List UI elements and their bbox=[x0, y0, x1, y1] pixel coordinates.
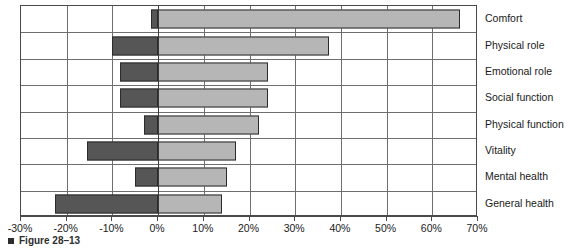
category-label: Emotional role bbox=[485, 65, 552, 77]
bar-negative[interactable] bbox=[151, 10, 158, 29]
category-label: Vitality bbox=[485, 144, 516, 156]
figure-container: Figure 28–13 -30%-20%-10%0%10%20%30%40%5… bbox=[0, 0, 573, 251]
x-axis-tick-mark bbox=[386, 216, 387, 221]
bar-negative[interactable] bbox=[120, 62, 158, 81]
x-axis-tick-label: 70% bbox=[466, 222, 487, 234]
x-axis-tick-mark bbox=[157, 216, 158, 221]
bar-positive[interactable] bbox=[158, 62, 268, 81]
bar-negative[interactable] bbox=[135, 168, 158, 187]
x-axis-tick-label: 40% bbox=[329, 222, 350, 234]
x-axis-tick-label: 0% bbox=[150, 222, 165, 234]
bar-negative[interactable] bbox=[144, 115, 158, 134]
bar-positive[interactable] bbox=[158, 115, 259, 134]
x-axis-tick-mark bbox=[66, 216, 67, 221]
bar-positive[interactable] bbox=[158, 10, 460, 29]
x-axis-tick-label: -10% bbox=[99, 222, 124, 234]
bar-row bbox=[21, 138, 476, 164]
x-axis-tick-label: 50% bbox=[375, 222, 396, 234]
x-axis-tick-mark bbox=[20, 216, 21, 221]
bar-row bbox=[21, 112, 476, 138]
figure-caption: Figure 28–13 bbox=[8, 235, 80, 247]
bar-row bbox=[21, 59, 476, 85]
x-axis-tick-label: -30% bbox=[8, 222, 33, 234]
x-axis-tick-label: -20% bbox=[53, 222, 78, 234]
x-axis-tick-label: 10% bbox=[192, 222, 213, 234]
bar-row bbox=[21, 32, 476, 58]
bar-row bbox=[21, 164, 476, 190]
x-axis-tick-label: 20% bbox=[238, 222, 259, 234]
x-axis-tick-mark bbox=[203, 216, 204, 221]
x-axis-tick-mark bbox=[477, 216, 478, 221]
x-axis-tick-mark bbox=[111, 216, 112, 221]
category-label: Physical function bbox=[485, 118, 564, 130]
bar-positive[interactable] bbox=[158, 194, 222, 213]
x-axis-tick-label: 60% bbox=[421, 222, 442, 234]
bar-row bbox=[21, 6, 476, 32]
bar-row bbox=[21, 191, 476, 217]
x-axis-tick-label: 30% bbox=[284, 222, 305, 234]
zero-gridline bbox=[158, 6, 159, 215]
category-label: Physical role bbox=[485, 39, 545, 51]
bar-negative[interactable] bbox=[120, 89, 158, 108]
x-axis-tick-mark bbox=[294, 216, 295, 221]
x-axis-tick-mark bbox=[249, 216, 250, 221]
square-bullet-icon bbox=[8, 238, 14, 244]
bar-negative[interactable] bbox=[87, 142, 158, 161]
x-axis-tick-mark bbox=[340, 216, 341, 221]
bar-negative[interactable] bbox=[55, 194, 158, 213]
category-label: General health bbox=[485, 197, 554, 209]
bar-positive[interactable] bbox=[158, 142, 236, 161]
category-label: Social function bbox=[485, 91, 553, 103]
bar-negative[interactable] bbox=[112, 36, 158, 55]
category-label: Comfort bbox=[485, 12, 522, 24]
bar-positive[interactable] bbox=[158, 168, 227, 187]
chart-plot-area bbox=[20, 5, 477, 216]
bar-row bbox=[21, 85, 476, 111]
category-label: Mental health bbox=[485, 170, 548, 182]
bar-positive[interactable] bbox=[158, 36, 329, 55]
figure-caption-text: Figure 28–13 bbox=[19, 235, 80, 247]
x-axis-tick-mark bbox=[431, 216, 432, 221]
bar-positive[interactable] bbox=[158, 89, 268, 108]
